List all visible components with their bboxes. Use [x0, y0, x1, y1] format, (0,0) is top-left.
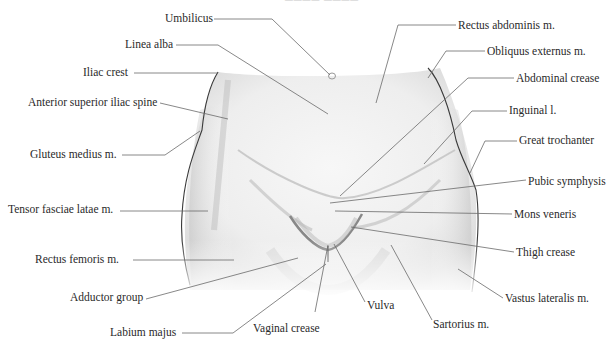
label-vaginal-crease: Vaginal crease: [253, 322, 320, 335]
label-asis: Anterior superior iliac spine: [28, 96, 157, 109]
label-obliquus-externus: Obliquus externus m.: [487, 45, 586, 58]
label-linea-alba: Linea alba: [125, 38, 173, 51]
label-adductor-group: Adductor group: [70, 291, 143, 304]
label-inguinal-l: Inguinal l.: [509, 104, 556, 117]
label-labium-majus: Labium majus: [110, 326, 176, 339]
label-rectus-abdominis: Rectus abdominis m.: [458, 19, 555, 32]
label-rectus-femoris: Rectus femoris m.: [35, 253, 119, 266]
label-abdominal-crease: Abdominal crease: [516, 72, 599, 85]
label-pubic-symphysis: Pubic symphysis: [528, 175, 606, 188]
label-sartorius: Sartorius m.: [433, 318, 489, 331]
label-iliac-crest: Iliac crest: [83, 66, 128, 79]
anatomy-diagram: ──── ────: [0, 0, 614, 352]
label-great-trochanter: Great trochanter: [519, 134, 594, 147]
label-gluteus-medius: Gluteus medius m.: [30, 148, 117, 161]
label-vulva: Vulva: [367, 299, 394, 312]
label-thigh-crease: Thigh crease: [516, 246, 575, 259]
label-mons-veneris: Mons veneris: [514, 208, 576, 221]
label-vastus-lateralis: Vastus lateralis m.: [505, 292, 589, 305]
label-umbilicus: Umbilicus: [165, 12, 213, 25]
label-tensor-fasciae-latae: Tensor fasciae latae m.: [8, 203, 113, 216]
